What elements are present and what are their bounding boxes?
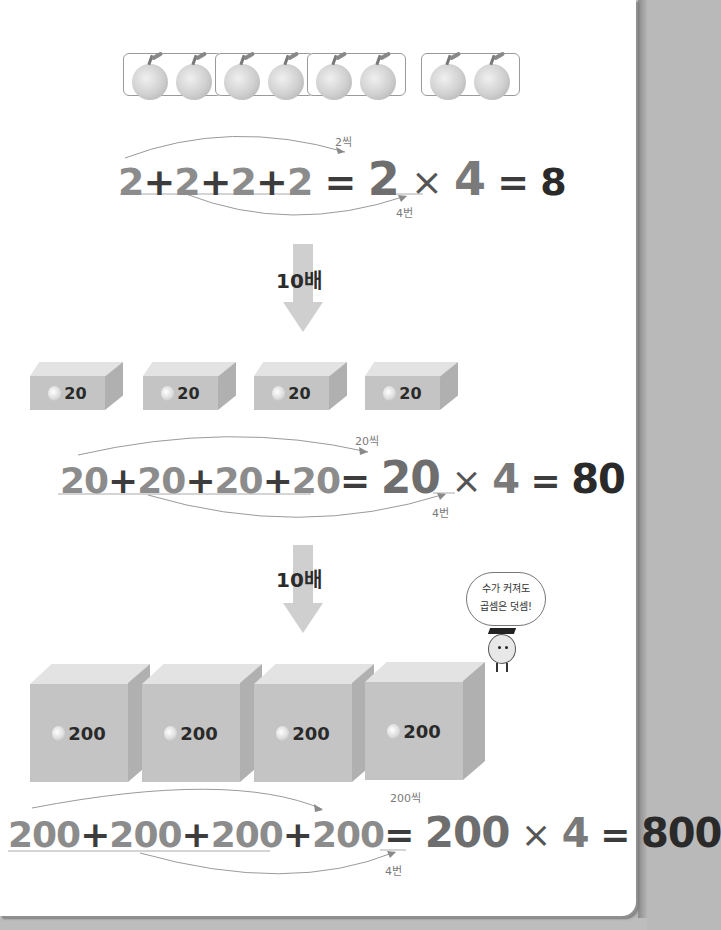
multiplier: 4 xyxy=(562,810,589,856)
equals-sign: = xyxy=(384,814,413,855)
multiplier: 4 xyxy=(454,152,485,206)
box-value: 20 xyxy=(399,384,421,403)
times-sign: × xyxy=(451,460,480,501)
addend: 200 xyxy=(211,814,283,855)
addend: 20 xyxy=(137,460,185,501)
plus-sign: + xyxy=(200,160,231,204)
equals-sign: = xyxy=(497,160,528,204)
box: 20 xyxy=(143,362,236,410)
box: 20 xyxy=(365,362,458,410)
apple-icon xyxy=(387,724,400,739)
addend: 200 xyxy=(312,814,384,855)
mascot-leg xyxy=(496,663,498,672)
worksheet-page: 2씩 2+2+2+2 = 2 × 4 = 8 4번 10배 20 20 20 2… xyxy=(0,0,636,916)
plus-sign: + xyxy=(80,814,109,855)
box: 20 xyxy=(254,362,347,410)
mascot-character xyxy=(488,634,516,664)
times-label: 4번 xyxy=(432,504,449,520)
equals-sign: = xyxy=(325,160,356,204)
box-value: 20 xyxy=(177,384,199,403)
equals-sign: = xyxy=(340,460,369,501)
addend: 20 xyxy=(292,460,340,501)
multiply-factor-label: 10배 xyxy=(276,265,322,294)
multiply-factor-label: 10배 xyxy=(276,564,322,593)
addend: 2 xyxy=(287,160,312,204)
factor: 2 xyxy=(368,152,399,206)
addend: 2 xyxy=(174,160,199,204)
bubble-line: 수가 커져도 xyxy=(467,580,545,598)
plus-sign: + xyxy=(181,814,210,855)
bubble-line: 곱셈은 덧셈! xyxy=(467,598,545,616)
factor: 20 xyxy=(381,452,440,503)
cube: 200 xyxy=(142,664,262,782)
product-result: 8 xyxy=(540,160,565,204)
box-value: 200 xyxy=(292,723,330,744)
page-edge-shadow xyxy=(638,0,647,930)
times-sign: × xyxy=(521,814,550,855)
times-label: 4번 xyxy=(385,862,402,878)
times-label: 4번 xyxy=(396,204,413,220)
equation-2: 20+20+20+20= 20 × 4 = 80 xyxy=(60,452,625,503)
plus-sign: + xyxy=(256,160,287,204)
multiplier: 4 xyxy=(492,456,519,502)
cube: 200 xyxy=(254,664,374,782)
box: 20 xyxy=(30,362,123,410)
apple-icon xyxy=(164,726,177,741)
page-bottom-margin xyxy=(0,918,647,930)
plus-sign: + xyxy=(143,160,174,204)
plus-sign: + xyxy=(263,460,292,501)
equals-sign: = xyxy=(531,460,560,501)
addend: 2 xyxy=(118,160,143,204)
factor: 200 xyxy=(425,808,510,857)
addend: 20 xyxy=(215,460,263,501)
plus-sign: + xyxy=(283,814,312,855)
equals-sign: = xyxy=(600,814,629,855)
product-result: 80 xyxy=(571,456,625,502)
equation-3: 200+200+200+200= 200 × 4 = 800 xyxy=(8,808,721,857)
mascot-leg xyxy=(506,663,508,672)
product-result: 800 xyxy=(641,810,721,856)
box-value: 20 xyxy=(288,384,310,403)
equation-1: 2+2+2+2 = 2 × 4 = 8 xyxy=(118,152,566,206)
plus-sign: + xyxy=(185,460,214,501)
box-value: 200 xyxy=(403,721,441,742)
addend: 200 xyxy=(8,814,80,855)
addend: 200 xyxy=(109,814,181,855)
each-arrow-curve xyxy=(32,789,322,809)
apple-icon xyxy=(161,386,174,401)
plus-sign: + xyxy=(108,460,137,501)
cube: 200 xyxy=(365,662,485,780)
box-value: 200 xyxy=(68,723,106,744)
times-sign: × xyxy=(411,160,442,204)
speech-bubble: 수가 커져도 곱셈은 덧셈! xyxy=(466,572,546,626)
apple-icon xyxy=(276,726,289,741)
cube: 200 xyxy=(30,664,150,782)
box-value: 200 xyxy=(180,723,218,744)
apple-icon xyxy=(383,386,396,401)
box-value: 20 xyxy=(64,384,86,403)
addend: 2 xyxy=(231,160,256,204)
each-label: 200씩 xyxy=(390,789,421,805)
apple-icon xyxy=(52,726,65,741)
each-label: 20씩 xyxy=(355,432,379,448)
each-label: 2씩 xyxy=(335,133,352,149)
addend: 20 xyxy=(60,460,108,501)
apple-icon xyxy=(272,386,285,401)
apple-icon xyxy=(48,386,61,401)
